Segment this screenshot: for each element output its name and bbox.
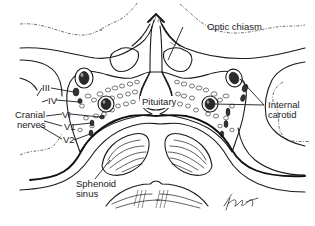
label-optic-chiasm: Optic chiasm [207,21,262,32]
label-pituitary: Pituitary [142,96,177,107]
leader-cn-VI [46,114,62,116]
anatomical-diagram: Optic chiasm Pituitary Internal carotid … [0,0,315,226]
sphenoid-sinus [102,134,212,209]
dot-mark [100,29,102,31]
label-nerve-VI: VI [62,109,71,120]
right-vessels [202,66,249,137]
leader-III [51,88,74,92]
leader-cn-V1 [44,121,62,126]
sphenoid-bone [20,115,305,192]
label-nerve-IV: IV [48,95,58,106]
leader-carotid-lower [214,104,264,105]
leader-IV [56,100,79,102]
artist-signature [224,194,258,210]
leader-V1 [73,123,91,125]
label-nerve-V2: V2 [63,134,75,145]
leader-V2 [74,134,90,140]
nerve-VI-left [100,115,105,119]
label-nerves: nerves [17,119,46,130]
nerve-IV-left [78,98,82,103]
label-nerve-V1: V1 [64,121,76,132]
leader-optic-chiasm [168,27,183,60]
label-carotid: carotid [268,109,297,120]
label-sinus: sinus [76,188,98,199]
optic-chiasm [110,14,192,72]
label-nerve-III: III [42,82,50,93]
